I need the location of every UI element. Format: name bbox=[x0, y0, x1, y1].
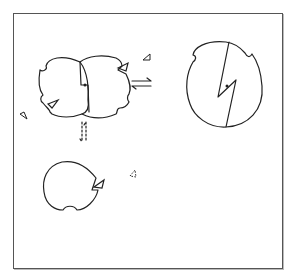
relaxed-left-subunit bbox=[39, 58, 88, 117]
constrained-subunit bbox=[187, 42, 262, 127]
diagram-drawing bbox=[0, 0, 292, 279]
monomer-subunit bbox=[44, 162, 98, 210]
